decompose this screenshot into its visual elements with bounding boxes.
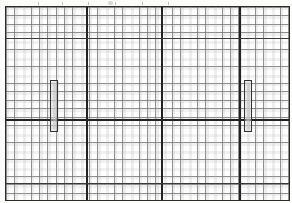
major-vertical-line: [239, 7, 241, 200]
top-tick-mark: [38, 2, 39, 5]
top-tick-mark: [115, 2, 116, 5]
semi-horizontal-line: [6, 183, 289, 184]
top-tick-mark: [88, 2, 89, 5]
top-tick-mark: [168, 2, 169, 5]
major-vertical-line: [161, 7, 163, 200]
vertical-element-right-fill: [247, 83, 250, 129]
vertical-element-left-fill: [53, 83, 56, 129]
screenshot-canvas: [0, 0, 292, 203]
major-vertical-line: [86, 7, 88, 200]
drawing-frame: [5, 6, 290, 201]
top-smudge-mark: [108, 1, 113, 5]
vertical-element-right[interactable]: [244, 80, 252, 132]
vertical-element-left[interactable]: [50, 80, 58, 132]
top-tick-mark: [142, 2, 143, 5]
semi-horizontal-line: [6, 38, 289, 39]
top-tick-mark: [62, 2, 63, 5]
